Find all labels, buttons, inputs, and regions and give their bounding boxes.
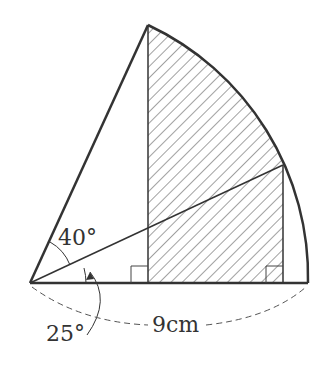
shaded-region (148, 20, 288, 285)
right-angle-mark-A (131, 266, 148, 283)
angle-pointer-25 (87, 272, 100, 335)
angle-arc-25 (84, 268, 86, 283)
radius-label: 9cm (152, 312, 199, 337)
geometry-figure: 40° 25° 9cm (0, 0, 333, 373)
angle-label-25: 25° (46, 321, 85, 346)
angle-label-40: 40° (58, 225, 97, 250)
